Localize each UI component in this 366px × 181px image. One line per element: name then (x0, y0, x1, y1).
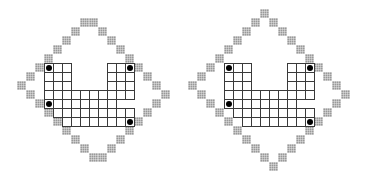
border-cell (323, 72, 332, 81)
corner-dot (307, 119, 313, 125)
border-cell (296, 135, 305, 144)
border-cell (260, 153, 269, 162)
corner-dot (226, 101, 232, 107)
border-cell (278, 153, 287, 162)
border-cell (242, 135, 251, 144)
border-cell (305, 126, 314, 135)
border-cell (251, 18, 260, 27)
border-cell (224, 45, 233, 54)
border-cell (269, 162, 278, 171)
border-cell (197, 72, 206, 81)
right-diamond-figure (0, 0, 366, 181)
border-cell (332, 99, 341, 108)
border-cell (206, 99, 215, 108)
corner-dot (307, 65, 313, 71)
border-cell (305, 54, 314, 63)
border-cell (242, 27, 251, 36)
border-cell (341, 90, 350, 99)
border-cell (233, 36, 242, 45)
border-cell (323, 108, 332, 117)
border-cell (224, 117, 233, 126)
border-cell (314, 117, 323, 126)
border-cell (188, 81, 197, 90)
border-cell (251, 144, 260, 153)
border-cell (215, 108, 224, 117)
border-cell (233, 126, 242, 135)
border-cell (287, 36, 296, 45)
border-cell (269, 18, 278, 27)
border-cell (197, 90, 206, 99)
border-cell (278, 27, 287, 36)
border-cell (296, 45, 305, 54)
border-cell (332, 81, 341, 90)
border-cell (287, 144, 296, 153)
border-cell (215, 54, 224, 63)
corner-dot (226, 65, 232, 71)
border-cell (314, 63, 323, 72)
grid-cell (305, 90, 315, 100)
border-cell (260, 9, 269, 18)
border-cell (206, 63, 215, 72)
